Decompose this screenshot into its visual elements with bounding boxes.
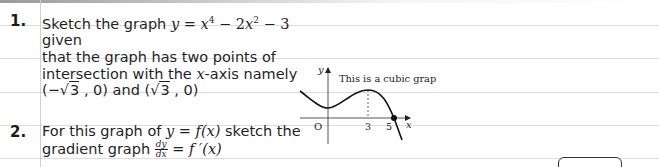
radicand: 3: [69, 81, 79, 98]
math-var: x: [201, 16, 209, 32]
math-var: y: [171, 16, 179, 32]
question-1-line-1: Sketch the graph y = x4 − 2x2 − 3 given: [42, 12, 322, 49]
graph-caption: This is a cubic graph.: [339, 73, 436, 84]
text: gradient graph: [42, 140, 155, 156]
math-arg: (x): [201, 123, 221, 139]
question-1-text: Sketch the graph y = x4 − 2x2 − 3 given …: [42, 12, 322, 99]
text: intersection with the: [42, 66, 196, 82]
text: Sketch the graph: [42, 16, 171, 32]
text: , 0) and (√: [79, 82, 159, 98]
radicand: 3: [159, 81, 169, 98]
question-2-text: For this graph of y = f(x) sketch the gr…: [42, 123, 322, 159]
cubic-curve: [300, 90, 402, 140]
math-var: y: [166, 123, 174, 139]
text: -axis namely: [205, 66, 298, 82]
margin-line: [40, 0, 41, 167]
math-var: x: [245, 16, 253, 32]
question-1-line-4: (−√3 , 0) and (√3 , 0): [42, 82, 322, 99]
text: (−√: [42, 82, 69, 98]
cubic-graph: y x O 3 5 This is a cubic graph.: [296, 60, 436, 164]
math-op: =: [179, 16, 200, 32]
math-func: f ′(x): [189, 140, 222, 156]
text: given: [42, 32, 82, 48]
math-op: =: [174, 123, 195, 139]
page-top-edge: [0, 0, 659, 3]
y-axis-label: y: [317, 64, 324, 75]
text: sketch the: [220, 123, 300, 139]
question-number-1: 1.: [10, 12, 26, 30]
tick-label-3: 3: [365, 121, 371, 132]
question-1-line-2: that the graph has two points of: [42, 49, 322, 66]
math-var: x: [196, 66, 204, 82]
question-1-line-3: intersection with the x-axis namely: [42, 66, 322, 83]
answer-box: [558, 157, 622, 167]
text: For this graph of: [42, 123, 166, 139]
text: , 0): [170, 82, 199, 98]
fraction-denominator: dx: [155, 150, 168, 159]
question-2-line-2: gradient graph dydx = f ′(x): [42, 140, 322, 159]
math-op: − 3: [259, 16, 290, 32]
origin-label: O: [314, 121, 322, 132]
x-axis-label: x: [406, 119, 412, 130]
tick-label-5: 5: [386, 121, 392, 132]
question-number-2: 2.: [10, 123, 26, 141]
math-op: =: [168, 140, 189, 156]
question-2-line-1: For this graph of y = f(x) sketch the: [42, 123, 322, 140]
derivative-fraction: dydx: [155, 140, 168, 159]
math-op: − 2: [214, 16, 245, 32]
